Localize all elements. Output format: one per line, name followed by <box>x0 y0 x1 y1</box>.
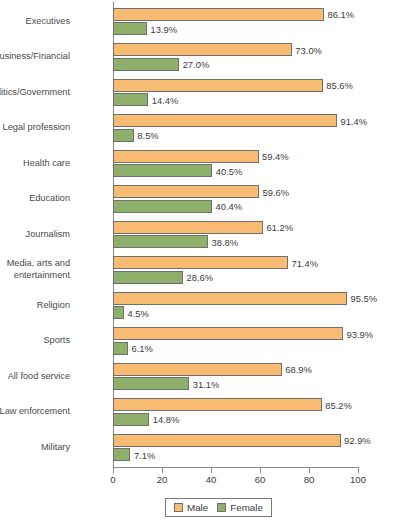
bar-row: 68.9% <box>113 363 358 376</box>
legend-label-male: Male <box>187 502 208 513</box>
category-label: Legal profession <box>0 122 70 134</box>
bar-male[interactable] <box>113 150 259 163</box>
bar-value-label: 6.1% <box>131 343 152 354</box>
category-label: Religion <box>0 300 70 312</box>
category-group: Politics/Government85.6%14.4% <box>113 79 358 107</box>
category-group: Executives86.1%13.9% <box>113 8 358 36</box>
bar-male[interactable] <box>113 43 292 56</box>
bar-value-label: 13.9% <box>151 23 178 34</box>
bar-value-label: 59.4% <box>262 151 289 162</box>
bar-value-label: 8.5% <box>137 130 158 141</box>
bar-male[interactable] <box>113 185 259 198</box>
bar-female[interactable] <box>113 58 179 71</box>
bar-female[interactable] <box>113 235 208 248</box>
bar-value-label: 7.1% <box>134 449 155 460</box>
bar-row: 8.5% <box>113 129 358 142</box>
bar-value-label: 14.4% <box>152 94 179 105</box>
x-tick-mark <box>211 468 212 473</box>
bar-male[interactable] <box>113 327 343 340</box>
category-label: All food service <box>0 371 70 383</box>
category-label: Education <box>0 193 70 205</box>
bar-row: 85.2% <box>113 398 358 411</box>
category-group: Military92.9%7.1% <box>113 434 358 462</box>
bar-male[interactable] <box>113 398 322 411</box>
bar-female[interactable] <box>113 342 128 355</box>
legend-label-female: Female <box>230 502 263 513</box>
category-group: Business/Financial73.0%27.0% <box>113 43 358 71</box>
x-tick-label: 80 <box>304 474 315 485</box>
bar-value-label: 59.6% <box>263 186 290 197</box>
bar-value-label: 40.4% <box>215 201 242 212</box>
x-tick-mark <box>113 468 114 473</box>
bar-male[interactable] <box>113 363 282 376</box>
bar-value-label: 85.2% <box>325 399 352 410</box>
bar-row: 6.1% <box>113 342 358 355</box>
bar-row: 91.4% <box>113 114 358 127</box>
bar-value-label: 61.2% <box>266 222 293 233</box>
bar-row: 13.9% <box>113 22 358 35</box>
bar-male[interactable] <box>113 79 323 92</box>
x-tick-label: 40 <box>206 474 217 485</box>
legend-item-male[interactable]: Male <box>174 502 208 513</box>
bar-row: 40.5% <box>113 164 358 177</box>
bar-row: 92.9% <box>113 434 358 447</box>
bar-male[interactable] <box>113 8 324 21</box>
bar-male[interactable] <box>113 114 337 127</box>
bar-value-label: 86.1% <box>327 9 354 20</box>
bar-row: 71.4% <box>113 256 358 269</box>
bar-female[interactable] <box>113 129 134 142</box>
category-group: Religion95.5%4.5% <box>113 292 358 320</box>
bar-male[interactable] <box>113 434 341 447</box>
bar-value-label: 68.9% <box>285 364 312 375</box>
category-group: Law enforcement85.2%14.8% <box>113 398 358 426</box>
category-group: Journalism61.2%38.8% <box>113 221 358 249</box>
x-tick-mark <box>358 468 359 473</box>
bar-row: 61.2% <box>113 221 358 234</box>
bar-female[interactable] <box>113 413 149 426</box>
bar-value-label: 28.6% <box>187 272 214 283</box>
bar-female[interactable] <box>113 306 124 319</box>
bar-value-label: 31.1% <box>193 378 220 389</box>
category-group: Health care59.4%40.5% <box>113 150 358 178</box>
bar-value-label: 91.4% <box>340 115 367 126</box>
bar-row: 95.5% <box>113 292 358 305</box>
category-label: Politics/Government <box>0 87 70 99</box>
bar-female[interactable] <box>113 200 212 213</box>
bar-male[interactable] <box>113 292 347 305</box>
category-label: Sports <box>0 335 70 347</box>
category-label: Media, arts and entertainment <box>0 258 70 281</box>
bar-row: 59.6% <box>113 185 358 198</box>
category-label: Military <box>0 442 70 454</box>
bar-value-label: 27.0% <box>183 59 210 70</box>
bar-row: 59.4% <box>113 150 358 163</box>
bar-male[interactable] <box>113 221 263 234</box>
category-group: Sports93.9%6.1% <box>113 327 358 355</box>
legend-swatch-female-icon <box>217 503 226 512</box>
bar-female[interactable] <box>113 377 189 390</box>
bar-male[interactable] <box>113 256 288 269</box>
bar-row: 38.8% <box>113 235 358 248</box>
chart-legend: Male Female <box>165 498 272 517</box>
bar-value-label: 92.9% <box>344 435 371 446</box>
bar-female[interactable] <box>113 22 147 35</box>
bar-value-label: 85.6% <box>326 80 353 91</box>
bar-value-label: 40.5% <box>216 165 243 176</box>
bar-female[interactable] <box>113 448 130 461</box>
bar-female[interactable] <box>113 271 183 284</box>
bar-row: 86.1% <box>113 8 358 21</box>
x-tick-label: 100 <box>350 474 366 485</box>
category-label: Law enforcement <box>0 406 70 418</box>
bar-female[interactable] <box>113 93 148 106</box>
category-label: Journalism <box>0 229 70 241</box>
legend-item-female[interactable]: Female <box>217 502 263 513</box>
x-tick-label: 60 <box>255 474 266 485</box>
bar-row: 85.6% <box>113 79 358 92</box>
x-tick-label: 0 <box>110 474 115 485</box>
bar-value-label: 73.0% <box>295 44 322 55</box>
category-group: Media, arts and entertainment71.4%28.6% <box>113 256 358 284</box>
bar-value-label: 38.8% <box>212 236 239 247</box>
bar-row: 40.4% <box>113 200 358 213</box>
bar-female[interactable] <box>113 164 212 177</box>
category-group: All food service68.9%31.1% <box>113 363 358 391</box>
category-group: Education59.6%40.4% <box>113 185 358 213</box>
